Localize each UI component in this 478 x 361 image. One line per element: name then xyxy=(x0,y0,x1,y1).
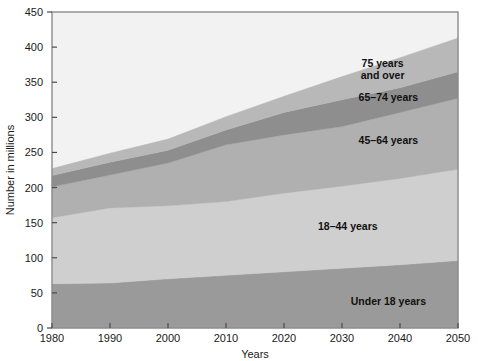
x-axis-title: Years xyxy=(241,348,269,360)
x-tick-label: 2010 xyxy=(214,332,238,344)
y-tick-label: 50 xyxy=(31,287,43,299)
series-label-4: 75 years xyxy=(362,57,404,69)
series-label-2: 45–64 years xyxy=(359,134,419,146)
y-tick-label: 350 xyxy=(25,76,43,88)
series-label-4: and over xyxy=(361,69,405,81)
series-label-0: Under 18 years xyxy=(351,295,426,307)
x-tick-label: 2040 xyxy=(388,332,412,344)
y-tick-label: 400 xyxy=(25,41,43,53)
y-tick-label: 300 xyxy=(25,111,43,123)
x-tick-label: 2020 xyxy=(272,332,296,344)
x-tick-label: 2030 xyxy=(330,332,354,344)
y-tick-label: 100 xyxy=(25,252,43,264)
x-tick-label: 1990 xyxy=(98,332,122,344)
series-label-3: 65–74 years xyxy=(359,91,419,103)
y-axis-title: Number in millions xyxy=(4,124,16,215)
stacked-area-chart: 0501001502002503003504004501980199020002… xyxy=(0,0,478,361)
x-tick-label: 2000 xyxy=(156,332,180,344)
y-tick-label: 250 xyxy=(25,146,43,158)
chart-canvas: 0501001502002503003504004501980199020002… xyxy=(0,0,478,361)
y-tick-label: 200 xyxy=(25,182,43,194)
y-tick-label: 150 xyxy=(25,217,43,229)
y-tick-label: 450 xyxy=(25,6,43,18)
series-label-1: 18–44 years xyxy=(318,220,378,232)
x-tick-label: 2050 xyxy=(446,332,470,344)
x-tick-label: 1980 xyxy=(40,332,64,344)
